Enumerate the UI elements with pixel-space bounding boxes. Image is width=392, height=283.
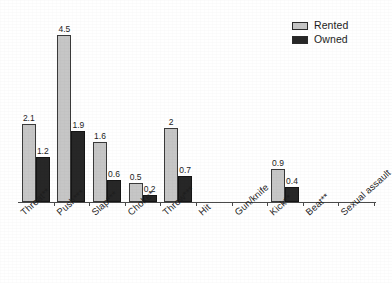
- bar-owned: 0.6: [107, 16, 121, 202]
- bar-group: 0.90.4: [267, 16, 303, 202]
- bar-value-label: 0.7: [179, 166, 191, 175]
- bar-rect: [178, 176, 192, 202]
- bar-rented: [235, 16, 249, 202]
- bar-rect: [164, 128, 178, 202]
- bar-rect: [107, 180, 121, 202]
- x-axis-tick: [125, 202, 126, 206]
- bar-owned: [321, 16, 335, 202]
- bar-rect: [143, 195, 157, 202]
- bar-group: [196, 16, 232, 202]
- bar-rented: 2.1: [22, 16, 36, 202]
- bar-value-label: 4.5: [58, 25, 70, 34]
- bar-owned: [356, 16, 370, 202]
- bar-rect: [285, 187, 299, 202]
- x-axis-tick: [267, 202, 268, 206]
- bar-rect: [271, 169, 285, 202]
- x-axis-line: [18, 202, 376, 203]
- bar-value-label: 0.5: [130, 173, 142, 182]
- x-axis-tick: [89, 202, 90, 206]
- bar-rented: 0.5: [129, 16, 143, 202]
- bar-rect: [71, 131, 85, 202]
- bar-group: 0.50.2: [125, 16, 161, 202]
- x-axis-label: Hit: [197, 202, 213, 217]
- bar-group: [338, 16, 374, 202]
- bar-rented: 1.6: [93, 16, 107, 202]
- bar-rect: [36, 157, 50, 202]
- x-axis-tick: [196, 202, 197, 206]
- bar-rented: 2: [164, 16, 178, 202]
- bar-group: [303, 16, 339, 202]
- bar-owned: 0.2: [143, 16, 157, 202]
- bar-owned: 0.4: [285, 16, 299, 202]
- bar-group: 20.7: [160, 16, 196, 202]
- x-axis-tick: [232, 202, 233, 206]
- bar-group: 2.11.2: [18, 16, 54, 202]
- bar-value-label: 2: [169, 118, 174, 127]
- bar-owned: [249, 16, 263, 202]
- bar-rect: [93, 142, 107, 202]
- bar-value-label: 1.9: [72, 121, 84, 130]
- bar-group: [232, 16, 268, 202]
- bar-rect: [22, 124, 36, 202]
- bar-owned: [214, 16, 228, 202]
- bar-group: 4.51.9: [54, 16, 90, 202]
- bar-value-label: 1.2: [37, 147, 49, 156]
- bar-value-label: 2.1: [23, 114, 35, 123]
- x-axis-tick: [54, 202, 55, 206]
- x-axis-tick: [303, 202, 304, 206]
- bar-rect: [129, 183, 143, 202]
- bar-value-label: 0.9: [272, 159, 284, 168]
- bar-group: 1.60.6: [89, 16, 125, 202]
- bar-rented: 4.5: [57, 16, 71, 202]
- x-axis-tick: [374, 202, 375, 206]
- bar-value-label: 0.4: [286, 177, 298, 186]
- x-axis-tick: [338, 202, 339, 206]
- bar-owned: 0.7: [178, 16, 192, 202]
- x-axis-tick: [160, 202, 161, 206]
- bar-rented: 0.9: [271, 16, 285, 202]
- bar-owned: 1.9: [71, 16, 85, 202]
- bar-value-label: 1.6: [94, 132, 106, 141]
- bar-rented: [342, 16, 356, 202]
- bar-chart: Rented Owned 2.11.24.51.91.60.60.50.220.…: [0, 0, 392, 283]
- bar-owned: 1.2: [36, 16, 50, 202]
- bar-value-label: 0.2: [144, 185, 156, 194]
- bar-rented: [307, 16, 321, 202]
- bar-value-label: 0.6: [108, 170, 120, 179]
- bar-rented: [200, 16, 214, 202]
- plot-area: 2.11.24.51.91.60.60.50.220.70.90.4: [18, 16, 374, 202]
- bar-rect: [57, 35, 71, 202]
